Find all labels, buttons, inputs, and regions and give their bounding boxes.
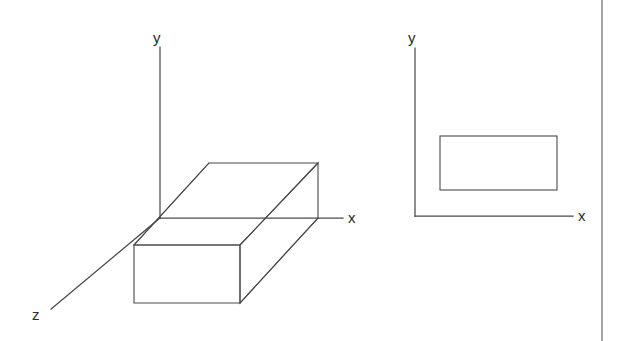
box-front-face: [134, 245, 240, 303]
box-top-face: [134, 163, 318, 245]
box-bottom-diagonal-edge: [240, 218, 318, 303]
left-x-axis-label: x: [348, 209, 356, 226]
box-back-left-edge: [134, 163, 209, 245]
box-right-face: [240, 163, 318, 303]
figure-root: y x z y x: [0, 0, 625, 341]
right-y-axis-label: y: [408, 29, 416, 46]
projection-rectangle: [440, 136, 557, 190]
right-x-axis-label: x: [578, 207, 586, 224]
right-diagram-2d-projection: y x: [408, 29, 586, 224]
left-y-axis-label: y: [153, 29, 161, 46]
left-diagram-3d-box: y x z: [32, 29, 356, 323]
left-z-axis: [51, 218, 160, 309]
left-z-axis-label: z: [32, 306, 40, 323]
diagram-canvas: y x z y x: [0, 0, 625, 341]
